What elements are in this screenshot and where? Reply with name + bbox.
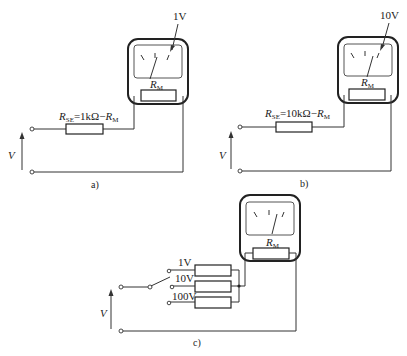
series-resistor-rse <box>66 124 103 134</box>
diagram-canvas: RM 1V RSE=1kΩ−RM V a) RM 10V <box>0 0 407 356</box>
meter-resistor-rm <box>253 248 289 259</box>
caption-c: c) <box>193 337 201 349</box>
meter-a: RM <box>128 39 188 104</box>
voltage-label: V <box>219 149 227 161</box>
terminal-minus <box>238 169 242 173</box>
rse-label: RSE=10kΩ−RM <box>264 107 331 121</box>
meter-resistor-rm <box>349 89 385 100</box>
voltmeter-range-diagram: RM 1V RSE=1kΩ−RM V a) RM 10V <box>0 0 407 356</box>
terminal-plus <box>119 285 123 289</box>
terminal-plus <box>30 127 34 131</box>
range-resistor-10v <box>195 281 231 292</box>
meter-face <box>246 202 294 235</box>
meter-b: RM <box>338 37 398 103</box>
wire <box>33 96 183 172</box>
meter-face <box>134 45 182 78</box>
range-label: 1V <box>173 10 187 22</box>
contact-100v <box>167 301 171 305</box>
terminal-minus <box>30 170 34 174</box>
range-resistor-1v <box>195 265 231 276</box>
panel-c: RM 1V 10V 100V V c) <box>100 195 300 349</box>
range-label: 10V <box>380 9 399 21</box>
series-resistor-rse <box>276 122 312 132</box>
caption-b: b) <box>300 178 308 190</box>
terminal-minus <box>119 329 123 333</box>
contact-1v <box>167 269 171 273</box>
arrow-head-icon <box>229 131 234 138</box>
selector-switch-blade[interactable] <box>151 277 170 286</box>
caption-a: a) <box>91 179 99 191</box>
arrow-head-icon <box>109 289 114 296</box>
terminal-plus <box>238 125 242 129</box>
voltage-label: V <box>8 149 16 161</box>
arrow-head-icon <box>20 132 25 139</box>
voltage-label: V <box>100 307 108 319</box>
panel-b: RM 10V RSE=10kΩ−RM V b) <box>219 9 399 190</box>
rse-label: RSE=1kΩ−RM <box>58 110 119 124</box>
range-resistor-100v <box>195 297 231 308</box>
meter-c: RM <box>240 195 300 261</box>
panel-a: RM 1V RSE=1kΩ−RM V a) <box>8 10 188 191</box>
range-label-10v: 10V <box>175 272 194 284</box>
range-label-1v: 1V <box>178 256 192 268</box>
meter-face <box>344 44 392 76</box>
junction-dot <box>237 284 240 287</box>
contact-10v <box>170 285 174 289</box>
range-label-100v: 100V <box>172 290 197 302</box>
